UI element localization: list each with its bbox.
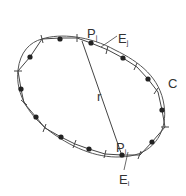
point-pj-dot xyxy=(88,40,93,45)
label-c: C xyxy=(168,76,177,91)
label-ei: Ei xyxy=(119,172,130,187)
leader-ej xyxy=(101,36,117,47)
tick-marks xyxy=(14,34,169,159)
polygon-approximation xyxy=(18,38,165,155)
diagram-canvas: Pj Ej C r Pi Ei xyxy=(0,0,186,196)
label-pi: Pi xyxy=(116,140,127,155)
ellipse-polygon-diagram: Pj Ej C r Pi Ei xyxy=(0,0,186,196)
label-r: r xyxy=(97,89,102,104)
label-ej: Ej xyxy=(118,31,129,47)
label-pj: Pj xyxy=(87,26,98,42)
curve-c xyxy=(18,36,165,157)
radius-line xyxy=(82,41,121,153)
vertex-dots xyxy=(18,36,164,157)
